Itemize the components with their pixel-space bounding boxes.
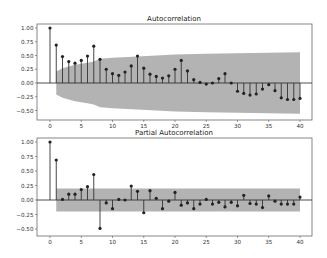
stem-marker [298, 97, 301, 100]
stem-marker [236, 204, 239, 207]
stem-marker [248, 94, 251, 97]
y-tick-label: 0.00 [21, 80, 34, 86]
stem-marker [292, 98, 295, 101]
y-tick-label: 0.75 [21, 154, 34, 160]
stem-marker [286, 202, 289, 205]
stem-marker [242, 92, 245, 95]
stem-marker [167, 200, 170, 203]
stem-marker [180, 59, 183, 62]
stem-marker [117, 198, 120, 201]
y-tick-label: 0.75 [21, 39, 34, 45]
stem-marker [211, 81, 214, 84]
stem-marker [105, 68, 108, 71]
stem-marker [61, 55, 64, 58]
y-tick-label: 0.50 [21, 53, 34, 59]
stem-marker [205, 83, 208, 86]
stem-marker [242, 194, 245, 197]
y-tick-label: 1.00 [21, 25, 34, 31]
y-tick-label: 0.50 [21, 168, 34, 174]
stem-marker [223, 72, 226, 75]
stem-marker [130, 64, 133, 67]
stem-marker [67, 60, 70, 63]
stem-marker [236, 90, 239, 93]
stem-marker [167, 74, 170, 77]
x-tick-label: 10 [109, 123, 117, 129]
stem-marker [267, 194, 270, 197]
stem-marker [98, 58, 101, 61]
stem-marker [292, 202, 295, 205]
stem-marker [142, 211, 145, 214]
x-tick-label: 5 [79, 239, 83, 245]
stem-marker [230, 201, 233, 204]
stem-marker [211, 202, 214, 205]
x-tick-label: 40 [296, 123, 304, 129]
y-tick-label: −0.50 [16, 226, 34, 232]
y-tick-label: 0.25 [21, 183, 34, 189]
y-tick-label: −0.50 [16, 108, 34, 114]
stem-marker [111, 207, 114, 210]
y-tick-label: −0.25 [16, 94, 34, 100]
stem-marker [173, 68, 176, 71]
acf-pacf-figure: Autocorrelation 1.000.750.500.250.00−0.2… [0, 0, 327, 258]
stem-marker [98, 227, 101, 230]
stem-marker [205, 198, 208, 201]
x-tick-label: 35 [265, 123, 273, 129]
stem-marker [123, 70, 126, 73]
stem-marker [217, 201, 220, 204]
x-tick-label: 5 [79, 123, 83, 129]
stem-marker [161, 207, 164, 210]
stem-marker [261, 206, 264, 209]
x-tick-label: 0 [48, 239, 52, 245]
stem-marker [261, 87, 264, 90]
stem-marker [192, 207, 195, 210]
x-tick-label: 30 [234, 123, 242, 129]
y-tick-label: 0.00 [21, 197, 34, 203]
stem-marker [217, 77, 220, 80]
x-tick-label: 40 [296, 239, 304, 245]
stem-marker [186, 69, 189, 72]
acf-plot: Autocorrelation 1.000.750.500.250.00−0.2… [16, 15, 312, 129]
stem-marker [280, 202, 283, 205]
stem-marker [105, 201, 108, 204]
stem-marker [255, 92, 258, 95]
stem-marker [86, 54, 89, 57]
stem-marker [280, 96, 283, 99]
stem-marker [286, 98, 289, 101]
stem-marker [80, 59, 83, 62]
y-tick-label: −0.25 [16, 212, 34, 218]
stem-marker [186, 201, 189, 204]
stem-marker [148, 73, 151, 76]
stem-marker [173, 191, 176, 194]
pacf-plot: Partial Autocorrelation 1.000.750.500.25… [16, 129, 312, 245]
stem-marker [198, 202, 201, 205]
x-tick-label: 15 [140, 239, 148, 245]
stem-marker [55, 43, 58, 46]
stem-marker [136, 190, 139, 193]
stem-marker [92, 173, 95, 176]
x-tick-label: 35 [265, 239, 273, 245]
stem-marker [92, 45, 95, 48]
stem-marker [61, 198, 64, 201]
stem-marker [130, 184, 133, 187]
stem-marker [48, 140, 51, 143]
stem-marker [55, 158, 58, 161]
stem-marker [73, 193, 76, 196]
stem-marker [48, 26, 51, 29]
stem-marker [123, 198, 126, 201]
stem-marker [267, 83, 270, 86]
x-tick-label: 10 [109, 239, 117, 245]
x-tick-label: 30 [234, 239, 242, 245]
stem-marker [73, 62, 76, 65]
stem-marker [86, 185, 89, 188]
stem-marker [80, 188, 83, 191]
stem-marker [230, 81, 233, 84]
stem-marker [198, 81, 201, 84]
x-tick-label: 20 [171, 239, 179, 245]
stem-marker [223, 205, 226, 208]
x-tick-label: 0 [48, 123, 52, 129]
y-tick-label: 1.00 [21, 139, 34, 145]
stem-marker [248, 202, 251, 205]
stem-marker [148, 189, 151, 192]
stem-marker [155, 75, 158, 78]
stem-marker [273, 200, 276, 203]
